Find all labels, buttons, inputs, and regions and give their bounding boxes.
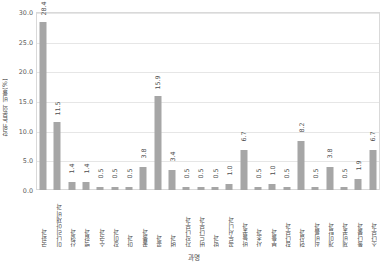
bar-slot: 0.5 [108, 12, 122, 190]
bar[interactable] [83, 182, 90, 190]
x-tick-label-text: 바늘꽃과 [240, 191, 249, 247]
bar[interactable] [269, 184, 276, 190]
x-tick-label-text: 박과 [211, 191, 220, 247]
bar-slot: 28.4 [36, 12, 50, 190]
bar[interactable] [111, 187, 118, 190]
x-tick-label: 바늘꽃과 [240, 191, 249, 247]
bar-value-label: 1.9 [354, 156, 361, 174]
x-tick-label-text: 돌나물과 [355, 191, 364, 247]
x-axis-title: 과명 [0, 252, 389, 262]
bar-value-label: 1.4 [68, 159, 75, 177]
x-tick-label: 국화과 [39, 191, 48, 247]
bar-value-label: 15.9 [154, 73, 161, 91]
bar-slot: 8.2 [294, 12, 308, 190]
x-tick-label-text: 참나무과 [283, 191, 292, 247]
y-tick-label: 25.0 [3, 39, 33, 47]
bar[interactable] [326, 167, 333, 190]
bar-value-label: 3.4 [168, 147, 175, 165]
bar-value-label: 0.5 [197, 165, 204, 183]
bar-slot: 3.8 [323, 12, 337, 190]
x-tick-label: 벼과 [168, 191, 177, 247]
bar-slot: 3.4 [165, 12, 179, 190]
bar[interactable] [54, 122, 61, 190]
bar-value-label: 3.8 [326, 145, 333, 163]
bar[interactable] [97, 187, 104, 190]
bar-slot: 1.4 [65, 12, 79, 190]
x-tick-label-text: 개미탑과 [326, 191, 335, 247]
x-tick-label: 자작나무과 [183, 191, 192, 247]
x-tick-label: 장미과 [111, 191, 120, 247]
bar-value-label: 1.4 [82, 159, 89, 177]
bar-slot: 1.0 [222, 12, 236, 190]
bar[interactable] [40, 22, 47, 191]
x-tick-label: 마과 [125, 191, 134, 247]
bar[interactable] [126, 187, 133, 190]
x-tick-label-text: 마과 [125, 191, 134, 247]
y-tick-label: 30.0 [3, 9, 33, 17]
bar-value-label: 0.5 [96, 165, 103, 183]
bar-slot: 0.5 [93, 12, 107, 190]
bar[interactable] [183, 187, 190, 190]
bar[interactable] [283, 187, 290, 190]
bar[interactable] [212, 187, 219, 190]
x-tick-label-text: 소나무과 [369, 191, 378, 247]
x-tick-label: 참나무과 [283, 191, 292, 247]
x-tick-label: 산형과 [68, 191, 77, 247]
bar[interactable] [68, 182, 75, 190]
bar[interactable] [369, 150, 376, 190]
bar-slot: 6.7 [237, 12, 251, 190]
x-tick-label-text: 쇠비름과 [312, 191, 321, 247]
x-tick-label: 미나리아재비과 [54, 191, 63, 247]
bar[interactable] [298, 141, 305, 190]
bar-value-label: 6.7 [240, 128, 247, 146]
bar-value-label: 11.5 [53, 99, 60, 117]
x-axis-tick-labels: 국화과미나리아재비과산형과백합과수국과장미과마과꿀풀과콩과벼과자작나무과버드나무… [36, 191, 380, 249]
y-axis-title: 학위논문의 비율(%) [0, 52, 12, 162]
bar-slot: 6.7 [366, 12, 380, 190]
x-tick-label: 쇠비름과 [312, 191, 321, 247]
x-tick-label: 콩과 [154, 191, 163, 247]
x-tick-label-text: 자작나무과 [183, 191, 192, 247]
bar-slot: 0.5 [179, 12, 193, 190]
bar-value-label: 0.5 [311, 165, 318, 183]
bar-slot: 0.5 [251, 12, 265, 190]
bar-value-label: 0.5 [254, 165, 261, 183]
bar[interactable] [312, 187, 319, 190]
bar-slot: 15.9 [151, 12, 165, 190]
x-tick-label: 수국과 [97, 191, 106, 247]
x-tick-label-text: 버드나무과 [197, 191, 206, 247]
x-tick-label: 버드나무과 [197, 191, 206, 247]
x-tick-label-text: 장미과 [111, 191, 120, 247]
bar-value-label: 28.4 [39, 0, 46, 17]
x-tick-label: 제비꽃과 [340, 191, 349, 247]
x-tick-label-text: 제비꽃과 [340, 191, 349, 247]
bar-slot: 1.4 [79, 12, 93, 190]
bar-value-label: 0.5 [340, 165, 347, 183]
x-tick-label-text: 산형과 [68, 191, 77, 247]
x-tick-label-text: 부들과 [269, 191, 278, 247]
bar-slot: 0.5 [122, 12, 136, 190]
bar-slot: 1.0 [265, 12, 279, 190]
bar[interactable] [226, 184, 233, 190]
x-tick-label-text: 콩과 [154, 191, 163, 247]
bar[interactable] [140, 167, 147, 190]
bar[interactable] [240, 150, 247, 190]
bar-slot: 0.5 [208, 12, 222, 190]
bar[interactable] [154, 96, 161, 190]
bar[interactable] [169, 170, 176, 190]
x-tick-label-text: 수국과 [97, 191, 106, 247]
bar-slot: 0.5 [194, 12, 208, 190]
bar[interactable] [255, 187, 262, 190]
bar-slot: 0.5 [308, 12, 322, 190]
bar-value-label: 0.5 [111, 165, 118, 183]
bar[interactable] [197, 187, 204, 190]
x-tick-label: 소나무과 [369, 191, 378, 247]
bar-value-label: 1.0 [268, 162, 275, 180]
bar[interactable] [355, 179, 362, 190]
bar-value-label: 1.0 [225, 162, 232, 180]
bar-slot: 3.8 [136, 12, 150, 190]
x-tick-label-text: 사초과 [254, 191, 263, 247]
bar[interactable] [341, 187, 348, 190]
bar-value-label: 8.2 [297, 119, 304, 137]
bar-slot: 11.5 [50, 12, 64, 190]
